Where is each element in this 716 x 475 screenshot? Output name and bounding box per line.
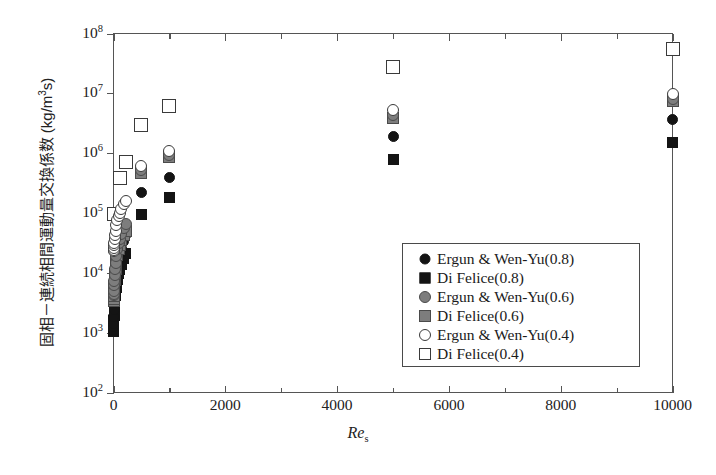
legend-item-label: Di Felice(0.8)	[437, 270, 524, 286]
x-tick-mark	[169, 388, 170, 393]
legend-marker-icon	[417, 328, 433, 341]
data-point	[164, 192, 175, 203]
legend-marker-icon	[417, 290, 433, 303]
legend-marker-icon	[419, 310, 431, 322]
x-tick-mark	[281, 388, 282, 393]
x-tick-label: 0	[110, 396, 118, 414]
data-point	[136, 209, 147, 220]
legend-marker-icon	[417, 347, 433, 360]
data-point	[388, 131, 399, 142]
legend-item[interactable]: Di Felice(0.4)	[403, 344, 639, 363]
x-tick-mark-top	[505, 34, 506, 39]
legend-marker-icon	[420, 272, 431, 283]
data-point	[162, 99, 176, 113]
x-tick-label: 10000	[653, 396, 692, 414]
data-point	[135, 160, 147, 172]
legend-item[interactable]: Di Felice(0.6)	[403, 306, 639, 325]
data-point	[136, 187, 147, 198]
legend-marker-icon	[417, 309, 433, 322]
x-tick-mark-top	[281, 34, 282, 39]
legend-item-label: Di Felice(0.4)	[437, 346, 524, 362]
legend-item[interactable]: Ergun & Wen-Yu(0.4)	[403, 325, 639, 344]
x-tick-label: 4000	[322, 396, 353, 414]
data-point	[119, 155, 133, 169]
legend-item-label: Ergun & Wen-Yu(0.4)	[437, 327, 574, 343]
legend-marker-icon	[419, 291, 431, 303]
x-tick-mark-top	[449, 34, 450, 41]
legend-item[interactable]: Ergun & Wen-Yu(0.6)	[403, 287, 639, 306]
x-tick-mark-top	[561, 34, 562, 41]
legend-marker-icon	[417, 252, 433, 265]
y-tick-mark	[107, 93, 114, 94]
data-point	[386, 60, 400, 74]
data-point	[163, 145, 175, 157]
x-tick-mark	[617, 388, 618, 393]
x-tick-mark-top	[673, 34, 674, 41]
x-tick-mark	[505, 388, 506, 393]
data-point	[113, 171, 127, 185]
legend-marker-icon	[417, 271, 433, 284]
x-tick-mark-top	[225, 34, 226, 41]
y-axis-title: 固相－連続相間運動量交換係数 (kg/m3s)	[35, 13, 56, 413]
x-tick-mark	[337, 386, 338, 393]
x-tick-mark-top	[114, 34, 115, 41]
x-tick-mark	[114, 386, 115, 393]
legend-item-label: Ergun & Wen-Yu(0.6)	[437, 289, 574, 305]
x-tick-mark-top	[169, 34, 170, 39]
x-tick-mark	[393, 388, 394, 393]
legend-marker-icon	[419, 348, 431, 360]
data-point	[120, 195, 132, 207]
x-tick-mark-top	[617, 34, 618, 39]
scatter-chart-figure: 102103104105106107108 020004000600080001…	[0, 0, 716, 475]
legend-item[interactable]: Ergun & Wen-Yu(0.8)	[403, 249, 639, 268]
data-point	[667, 137, 678, 148]
x-tick-mark	[673, 386, 674, 393]
x-tick-mark	[449, 386, 450, 393]
data-point	[667, 114, 678, 125]
data-point	[666, 42, 680, 56]
y-tick-mark	[107, 153, 114, 154]
x-tick-mark-top	[393, 34, 394, 39]
legend-marker-icon	[419, 329, 431, 341]
x-axis-title: Res	[0, 424, 716, 442]
legend-item-label: Ergun & Wen-Yu(0.8)	[437, 251, 574, 267]
x-tick-mark-top	[337, 34, 338, 41]
x-tick-label: 6000	[433, 396, 464, 414]
data-point	[667, 88, 679, 100]
x-tick-label: 2000	[210, 396, 241, 414]
x-tick-label: 8000	[545, 396, 576, 414]
data-point	[164, 172, 175, 183]
legend-item[interactable]: Di Felice(0.8)	[403, 268, 639, 287]
chart-legend: Ergun & Wen-Yu(0.8)Di Felice(0.8)Ergun &…	[402, 243, 640, 367]
legend-item-label: Di Felice(0.6)	[437, 308, 524, 324]
data-point	[388, 154, 399, 165]
legend-marker-icon	[420, 253, 431, 264]
x-tick-mark	[225, 386, 226, 393]
x-tick-mark	[561, 386, 562, 393]
data-point	[134, 118, 148, 132]
